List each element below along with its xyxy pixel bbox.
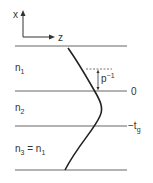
layer-n2-label: n2 xyxy=(15,103,24,113)
mode-profile-curve xyxy=(65,48,102,170)
x-axis-arrow-icon xyxy=(21,10,26,16)
arrow-down-icon xyxy=(97,87,100,91)
layer-n1-label: n1 xyxy=(15,63,24,73)
minus-tg-label: −tg xyxy=(128,121,141,131)
zero-label: 0 xyxy=(131,87,137,97)
x-axis-label: x xyxy=(13,10,18,20)
z-axis-arrow-icon xyxy=(49,35,55,40)
decay-length-label: p−1 xyxy=(101,74,115,84)
z-axis-label: z xyxy=(58,33,63,43)
arrow-up-icon xyxy=(97,70,100,74)
layer-n3-label: n3 = n1 xyxy=(15,144,45,154)
